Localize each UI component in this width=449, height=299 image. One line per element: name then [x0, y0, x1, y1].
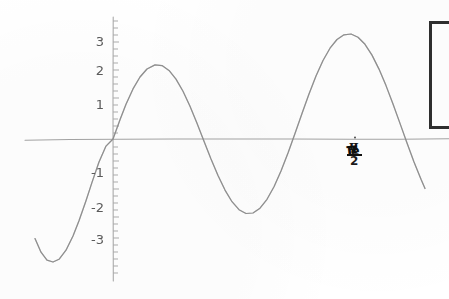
- square-bracket: [429, 21, 449, 129]
- figure-canvas: 3 2 1 -1 -2 -3 π π е 2: [0, 0, 449, 299]
- x-axis-line: [25, 139, 449, 140]
- y-tick-label-minus-2: -2: [78, 200, 104, 215]
- y-tick-label-2: 2: [84, 63, 104, 78]
- annotation-denominator: 2: [350, 155, 358, 168]
- smudged-annotation: π π е 2: [344, 140, 370, 170]
- y-tick-label-3: 3: [84, 34, 104, 49]
- y-tick-label-minus-1: -1: [78, 165, 104, 180]
- y-tick-label-minus-3: -3: [78, 232, 104, 247]
- y-axis-minor-ticks: [113, 21, 119, 273]
- y-tick-label-1: 1: [84, 97, 104, 112]
- plot-area: [0, 0, 449, 299]
